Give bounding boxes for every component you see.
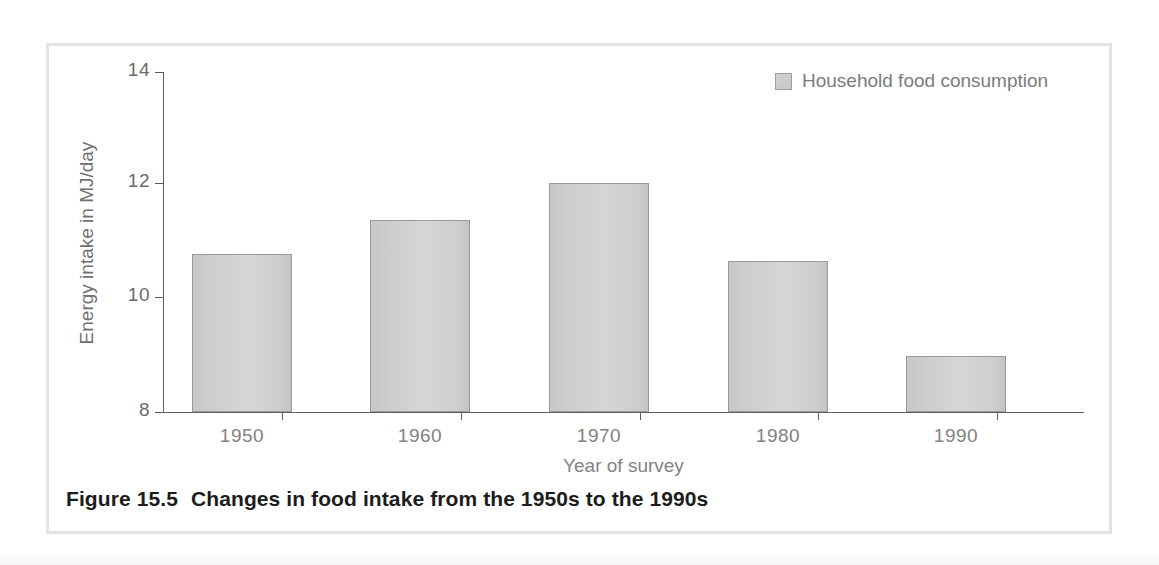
x-axis-line: [163, 412, 1084, 413]
y-tick-label-10: 10: [110, 284, 150, 306]
figure-caption-number: Figure 15.5: [66, 487, 178, 510]
y-tick-label-12: 12: [110, 170, 150, 192]
figure-caption-text: Changes in food intake from the 1950s to…: [191, 487, 708, 510]
figure-caption: Figure 15.5Changes in food intake from t…: [66, 487, 708, 511]
x-tick-label-1980: 1980: [718, 425, 838, 447]
x-tick-label-1950: 1950: [182, 425, 302, 447]
y-tick-label-wrap-14: 14: [100, 72, 164, 73]
bar-1990: [906, 356, 1006, 412]
x-tick-label-1970: 1970: [539, 425, 659, 447]
y-tick-label-wrap-10: 10: [100, 297, 164, 298]
legend-swatch-icon: [775, 73, 792, 90]
x-tick-3: [640, 412, 641, 420]
x-tick-label-1990: 1990: [896, 425, 1016, 447]
y-tick-label-wrap-8: 8: [100, 412, 164, 413]
y-axis-line: [163, 72, 164, 413]
scanned-page: 14 12 10 8 1950 1960 1970 1980 1990: [0, 0, 1159, 565]
bar-1970: [549, 183, 649, 413]
bar-1950: [192, 254, 292, 412]
legend-label: Household food consumption: [802, 70, 1048, 92]
page-bottom-shadow: [0, 552, 1159, 565]
bar-chart: 14 12 10 8 1950 1960 1970 1980 1990: [0, 0, 1159, 565]
y-tick-label-wrap-12: 12: [100, 183, 164, 184]
bar-1980: [728, 261, 828, 412]
bar-1960: [370, 220, 470, 412]
x-tick-2: [461, 412, 462, 420]
x-axis-title: Year of survey: [163, 455, 1084, 477]
x-tick-4: [818, 412, 819, 420]
x-tick-5: [997, 412, 998, 420]
y-tick-label-8: 8: [110, 399, 150, 421]
x-tick-1: [282, 412, 283, 420]
legend: Household food consumption: [775, 70, 1048, 92]
x-tick-label-1960: 1960: [360, 425, 480, 447]
y-axis-title: Energy intake in MJ/day: [76, 123, 98, 363]
y-tick-label-14: 14: [110, 59, 150, 81]
